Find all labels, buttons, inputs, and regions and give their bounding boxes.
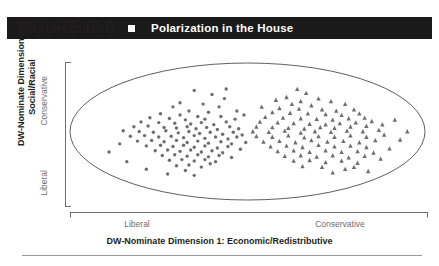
scatter-point-circle bbox=[203, 117, 206, 120]
scatter-point-circle bbox=[221, 133, 224, 136]
scatter-point-triangle bbox=[316, 134, 320, 138]
scatter-point-circle bbox=[201, 102, 204, 105]
scatter-point-triangle bbox=[277, 106, 281, 110]
scatter-point-triangle bbox=[275, 149, 279, 153]
scatter-point-circle bbox=[173, 153, 176, 156]
scatter-point-circle bbox=[152, 130, 155, 133]
scatter-point-triangle bbox=[332, 135, 336, 139]
scatter-point-circle bbox=[178, 101, 181, 104]
figure-header-bar: FIGURE 15.6 Polarization in the House bbox=[7, 17, 432, 39]
scatter-point-circle bbox=[233, 117, 236, 120]
scatter-point-circle bbox=[118, 142, 121, 145]
scatter-point-circle bbox=[203, 144, 206, 147]
square-bullet-icon bbox=[128, 25, 135, 32]
scatter-point-triangle bbox=[307, 158, 311, 162]
scatter-point-circle bbox=[225, 120, 228, 123]
scatter-point-triangle bbox=[283, 154, 287, 158]
scatter-point-circle bbox=[129, 135, 132, 138]
scatter-point-circle bbox=[182, 136, 185, 139]
scatter-point-triangle bbox=[323, 148, 327, 152]
scatter-point-circle bbox=[185, 125, 188, 128]
scatter-point-triangle bbox=[398, 137, 402, 141]
scatter-point-circle bbox=[240, 133, 243, 136]
scatter-point-circle bbox=[189, 148, 192, 151]
scatter-point-circle bbox=[235, 135, 238, 138]
scatter-point-circle bbox=[207, 155, 210, 158]
scatter-point-triangle bbox=[281, 115, 285, 119]
scatter-point-circle bbox=[125, 160, 128, 163]
scatter-point-circle bbox=[207, 111, 210, 114]
scatter-point-triangle bbox=[393, 117, 397, 121]
scatter-point-circle bbox=[139, 120, 142, 123]
scatter-point-circle bbox=[132, 125, 135, 128]
scatter-point-circle bbox=[200, 165, 203, 168]
scatter-point-circle bbox=[237, 127, 240, 130]
scatter-point-triangle bbox=[251, 129, 255, 133]
scatter-point-circle bbox=[187, 163, 190, 166]
scatter-point-circle bbox=[232, 130, 235, 133]
scatter-point-triangle bbox=[343, 102, 347, 106]
scatter-point-circle bbox=[154, 149, 157, 152]
scatter-point-circle bbox=[185, 141, 188, 144]
scatter-point-circle bbox=[159, 144, 162, 147]
scatter-point-circle bbox=[225, 87, 228, 90]
scatter-point-triangle bbox=[299, 130, 303, 134]
scatter-point-circle bbox=[244, 141, 247, 144]
scatter-point-circle bbox=[194, 127, 197, 130]
scatter-point-circle bbox=[196, 139, 199, 142]
scatter-point-triangle bbox=[299, 153, 303, 157]
y-axis-title: DW-Nominate Dimension 2: Social/Racial bbox=[16, 12, 38, 162]
scatter-point-triangle bbox=[332, 126, 336, 130]
scatter-point-circle bbox=[214, 135, 217, 138]
scatter-point-circle bbox=[219, 140, 222, 143]
scatter-point-circle bbox=[203, 137, 206, 140]
scatter-point-triangle bbox=[293, 140, 297, 144]
scatter-point-triangle bbox=[277, 139, 281, 143]
scatter-point-circle bbox=[219, 115, 222, 118]
scatter-point-triangle bbox=[332, 144, 336, 148]
scatter-point-circle bbox=[168, 117, 171, 120]
scatter-point-triangle bbox=[320, 107, 324, 111]
scatter-point-circle bbox=[150, 139, 153, 142]
scatter-point-circle bbox=[193, 134, 196, 137]
scatter-point-triangle bbox=[357, 111, 361, 115]
scatter-point-triangle bbox=[275, 120, 279, 124]
scatter-point-triangle bbox=[329, 99, 333, 103]
scatter-point-triangle bbox=[331, 153, 335, 157]
scatter-point-triangle bbox=[361, 129, 365, 133]
scatter-point-circle bbox=[178, 113, 181, 116]
scatter-point-circle bbox=[209, 130, 212, 133]
scatter-point-triangle bbox=[299, 99, 303, 103]
scatter-point-triangle bbox=[377, 128, 381, 132]
scatter-point-circle bbox=[161, 154, 164, 157]
scatter-point-triangle bbox=[329, 130, 333, 134]
scatter-point-circle bbox=[187, 130, 190, 133]
scatter-point-triangle bbox=[302, 126, 306, 130]
scatter-point-triangle bbox=[323, 122, 327, 126]
scatter-point-triangle bbox=[263, 115, 267, 119]
scatter-point-triangle bbox=[364, 124, 368, 128]
scatter-point-triangle bbox=[315, 154, 319, 158]
scatter-point-circle bbox=[198, 132, 201, 135]
scatter-point-triangle bbox=[284, 143, 288, 147]
scatter-point-triangle bbox=[378, 157, 382, 161]
scatter-point-triangle bbox=[371, 150, 375, 154]
scatter-point-triangle bbox=[316, 96, 320, 100]
scatter-point-circle bbox=[200, 121, 203, 124]
scatter-point-triangle bbox=[306, 111, 310, 115]
scatter-point-triangle bbox=[331, 170, 335, 174]
scatter-point-triangle bbox=[270, 125, 274, 129]
scatter-point-triangle bbox=[291, 121, 295, 125]
scatter-point-triangle bbox=[346, 155, 350, 159]
scatter-point-triangle bbox=[291, 148, 295, 152]
scatter-point-circle bbox=[157, 135, 160, 138]
scatter-point-triangle bbox=[348, 143, 352, 147]
scatter-point-triangle bbox=[339, 113, 343, 117]
x-axis-title: DW-Nominate Dimension 1: Economic/Redist… bbox=[0, 236, 439, 246]
scatter-point-circle bbox=[136, 139, 139, 142]
scatter-point-triangle bbox=[286, 133, 290, 137]
y-axis-tick-conservative: Conservative bbox=[39, 76, 49, 126]
scatter-point-circle bbox=[175, 126, 178, 129]
scatter-point-circle bbox=[217, 154, 220, 157]
scatter-point-triangle bbox=[370, 119, 374, 123]
